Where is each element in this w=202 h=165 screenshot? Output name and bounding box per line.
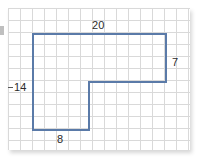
dimension-label-left: 14: [14, 82, 27, 93]
left-dimension-tick: [8, 87, 13, 88]
dimension-label-top: 20: [92, 20, 105, 31]
dimension-label-bottom: 8: [57, 134, 63, 145]
dimension-label-right: 7: [172, 57, 178, 68]
l-shape-outline: [33, 34, 166, 130]
page-margin-fragment: [0, 26, 4, 35]
geometry-figure: 20 7 14 8: [0, 0, 202, 165]
